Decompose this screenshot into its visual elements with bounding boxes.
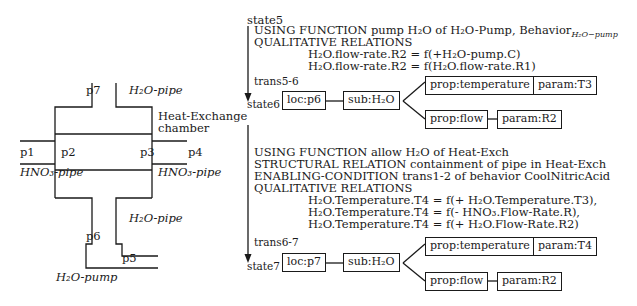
state6-param-flow-node: param:R2 [497,110,562,129]
state6-label: state6 [247,99,280,110]
state7-loc-node: loc:p7 [282,253,326,272]
state5-relation-2: H₂O.flow-rate.R2 = f(H₂O.flow-rate.R1) [308,60,536,72]
trans56-label: trans5-6 [254,76,299,87]
state6-prop-temperature-node: prop:temperature [425,76,535,95]
state7-prop-flow-node: prop:flow [425,272,488,291]
state7-sub-node: sub:H₂O [343,253,400,272]
state7-param-flow-node: param:R2 [497,272,562,291]
state6-loc-node: loc:p6 [282,91,326,110]
state6-param-temperature-node: param:T3 [533,76,597,95]
behavior-subscript: H₂O−pump [571,30,617,39]
state7-label: state7 [247,261,280,272]
state7-prop-temperature-node: prop:temperature [425,237,535,256]
state6-sub-node: sub:H₂O [343,91,400,110]
state6-prop-flow-node: prop:flow [425,110,488,129]
trans67-label: trans6-7 [254,237,299,248]
state7-param-temperature-node: param:T4 [533,237,597,256]
block2-relation-3: H₂O.Temperature.T4 = f(+ H₂O.Flow-Rate.R… [308,218,579,230]
